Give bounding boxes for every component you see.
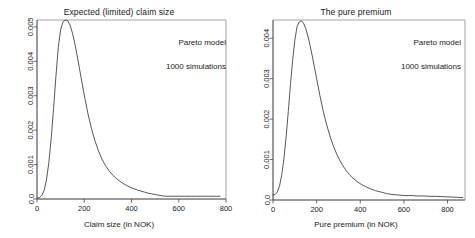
svg-text:0.0: 0.0: [263, 195, 272, 205]
svg-text:0.004: 0.004: [27, 52, 36, 71]
svg-text:0: 0: [35, 204, 39, 213]
svg-text:600: 600: [172, 204, 185, 213]
svg-text:0.0: 0.0: [27, 194, 36, 204]
x-axis-label: Pure premium (in NOK): [237, 220, 475, 229]
svg-text:200: 200: [310, 205, 323, 214]
svg-text:400: 400: [354, 205, 367, 214]
pure-premium-density-plot: 02004006008000.00.0010.0020.0030.004: [237, 0, 475, 238]
svg-text:0.002: 0.002: [27, 121, 36, 140]
svg-text:0.001: 0.001: [27, 155, 36, 174]
svg-text:200: 200: [78, 204, 91, 213]
svg-text:800: 800: [220, 204, 233, 213]
annotation-pareto-model: Pareto model: [178, 38, 226, 47]
svg-text:0.003: 0.003: [27, 86, 36, 105]
svg-text:0.003: 0.003: [263, 69, 272, 88]
svg-text:800: 800: [441, 205, 454, 214]
claim-size-density-plot: 02004006008000.00.0010.0020.0030.0040.00…: [0, 0, 238, 238]
x-axis-label: Claim size (in NOK): [0, 220, 238, 229]
annotation-pareto-model: Pareto model: [413, 38, 461, 47]
svg-text:0: 0: [271, 205, 275, 214]
chart-panel-pure-premium: The pure premium 02004006008000.00.0010.…: [237, 0, 475, 238]
annotation-simulations: 1000 simulations: [401, 62, 461, 71]
chart-panel-claim-size: Expected (limited) claim size 0200400600…: [0, 0, 238, 238]
svg-text:600: 600: [398, 205, 411, 214]
svg-text:0.002: 0.002: [263, 110, 272, 129]
svg-text:0.005: 0.005: [27, 17, 36, 36]
svg-text:0.004: 0.004: [263, 29, 272, 48]
figure-container: Expected (limited) claim size 0200400600…: [0, 0, 475, 238]
svg-text:0.001: 0.001: [263, 150, 272, 169]
svg-text:400: 400: [125, 204, 138, 213]
annotation-simulations: 1000 simulations: [166, 62, 226, 71]
